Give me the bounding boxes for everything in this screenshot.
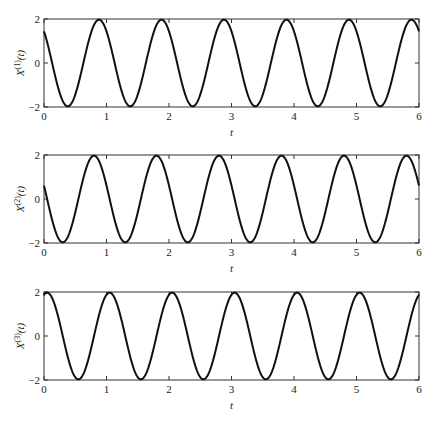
x-tick-label: 2: [166, 383, 172, 395]
axes-frame: [44, 155, 419, 243]
y-axis-label: X(2)(t): [13, 185, 27, 213]
x-axis-label: t: [230, 126, 234, 138]
x-tick-label: 2: [166, 110, 172, 122]
y-tick-label: 2: [35, 13, 41, 25]
y-tick-label: 0: [35, 57, 41, 69]
x-tick-label: 4: [291, 383, 297, 395]
x-tick-label: 5: [354, 110, 360, 122]
x-tick-label: 3: [229, 246, 235, 258]
x-tick-label: 5: [354, 383, 360, 395]
y-tick-label: 2: [35, 286, 41, 298]
x-tick-label: 6: [416, 110, 422, 122]
figure: 0123456−202tX(1)(t)0123456−202tX(2)(t)01…: [0, 0, 436, 424]
plot-panel-1: 0123456−202tX(1)(t): [13, 13, 422, 138]
x-tick-label: 4: [291, 246, 297, 258]
x-tick-label: 0: [41, 110, 47, 122]
y-tick-label: 0: [35, 193, 41, 205]
plot-panel-2: 0123456−202tX(2)(t): [13, 149, 422, 274]
x-tick-label: 0: [41, 383, 47, 395]
y-tick-label: 2: [35, 149, 41, 161]
x-tick-label: 1: [104, 110, 110, 122]
x-axis-label: t: [230, 262, 234, 274]
x-tick-label: 6: [416, 383, 422, 395]
x-tick-label: 3: [229, 383, 235, 395]
series-line-x3: [44, 293, 419, 380]
series-line-x2: [44, 156, 419, 243]
x-axis-label: t: [230, 399, 234, 411]
y-tick-label: −2: [28, 237, 40, 249]
y-axis-label: X(1)(t): [13, 49, 27, 77]
x-tick-label: 3: [229, 110, 235, 122]
y-axis-label: X(3)(t): [13, 322, 27, 350]
y-tick-label: −2: [28, 374, 40, 386]
x-tick-label: 2: [166, 246, 172, 258]
x-tick-label: 1: [104, 383, 110, 395]
y-tick-label: 0: [35, 330, 41, 342]
x-tick-label: 1: [104, 246, 110, 258]
series-line-x1: [44, 20, 419, 107]
y-tick-label: −2: [28, 101, 40, 113]
axes-frame: [44, 292, 419, 380]
plot-panel-3: 0123456−202tX(3)(t): [13, 286, 422, 411]
x-tick-label: 5: [354, 246, 360, 258]
x-tick-label: 6: [416, 246, 422, 258]
x-tick-label: 0: [41, 246, 47, 258]
x-tick-label: 4: [291, 110, 297, 122]
